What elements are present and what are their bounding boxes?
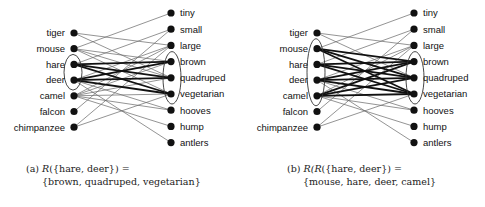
object-node-deer xyxy=(70,77,77,84)
edge-hare-small xyxy=(74,29,171,64)
attribute-label-tiny: tiny xyxy=(423,7,438,18)
object-label-mouse: mouse xyxy=(279,43,308,54)
attribute-label-small: small xyxy=(423,24,445,35)
attribute-label-vegetarian: vegetarian xyxy=(423,88,467,99)
attribute-node-vegetarian xyxy=(167,90,174,97)
object-node-tiger xyxy=(70,29,77,36)
attribute-node-hump xyxy=(410,123,417,130)
attribute-node-large xyxy=(167,42,174,49)
object-label-chimpanzee: chimpanzee xyxy=(257,122,308,133)
object-selection-ellipse xyxy=(64,54,82,90)
object-node-falcon xyxy=(313,108,320,115)
object-node-deer xyxy=(313,77,320,84)
object-label-deer: deer xyxy=(289,74,308,85)
object-node-camel xyxy=(313,92,320,99)
caption-a-arg: ({hare, deer}) = xyxy=(49,163,129,174)
object-label-hare: hare xyxy=(46,59,65,70)
panel-b: tigermouseharedeercamelfalconchimpanzeet… xyxy=(243,0,485,207)
attribute-node-antlers xyxy=(167,139,174,146)
attribute-label-tiny: tiny xyxy=(180,7,195,18)
attribute-label-hump: hump xyxy=(423,121,447,132)
edge-camel-hooves xyxy=(317,96,414,110)
panel-a: tigermouseharedeercamelfalconchimpanzeet… xyxy=(0,0,242,207)
caption-b: (b) R(R({hare, deer}) = {mouse, hare, de… xyxy=(287,162,436,188)
object-node-falcon xyxy=(70,108,77,115)
attribute-label-antlers: antlers xyxy=(423,137,452,148)
caption-a-tag: (a) xyxy=(26,163,39,174)
attribute-label-hooves: hooves xyxy=(423,105,454,116)
object-label-tiger: tiger xyxy=(290,27,308,38)
caption-b-arg: ({hare, deer}) = xyxy=(322,163,402,174)
object-label-falcon: falcon xyxy=(40,106,65,117)
attribute-label-small: small xyxy=(180,24,202,35)
object-node-mouse xyxy=(313,45,320,52)
bipartite-graph-b: tigermouseharedeercamelfalconchimpanzeet… xyxy=(243,0,485,160)
caption-b-result: {mouse, hare, deer, camel} xyxy=(287,175,436,188)
caption-a-result: {brown, quadruped, vegetarian} xyxy=(26,175,201,188)
attribute-label-quadruped: quadruped xyxy=(180,72,225,83)
attribute-node-tiny xyxy=(410,9,417,16)
attribute-label-brown: brown xyxy=(423,56,449,67)
attribute-node-antlers xyxy=(410,139,417,146)
attribute-label-hump: hump xyxy=(180,121,204,132)
attribute-node-hump xyxy=(167,123,174,130)
attribute-node-quadruped xyxy=(167,74,174,81)
attribute-node-quadruped xyxy=(410,74,417,81)
object-label-tiger: tiger xyxy=(47,27,65,38)
attribute-node-hooves xyxy=(167,107,174,114)
object-node-chimpanzee xyxy=(313,124,320,131)
object-node-chimpanzee xyxy=(70,124,77,131)
bipartite-graph-a: tigermouseharedeercamelfalconchimpanzeet… xyxy=(0,0,242,160)
caption-b-func: R(R xyxy=(304,163,322,174)
attribute-node-small xyxy=(410,26,417,33)
object-label-mouse: mouse xyxy=(36,43,65,54)
object-label-chimpanzee: chimpanzee xyxy=(14,122,65,133)
attribute-node-small xyxy=(167,26,174,33)
attribute-label-vegetarian: vegetarian xyxy=(180,88,224,99)
edge-camel-vegetarian xyxy=(317,94,414,96)
caption-a: (a) R({hare, deer}) = {brown, quadruped,… xyxy=(26,162,201,188)
object-label-camel: camel xyxy=(40,90,65,101)
attribute-node-brown xyxy=(410,58,417,65)
attribute-label-hooves: hooves xyxy=(180,105,211,116)
attribute-node-tiny xyxy=(167,9,174,16)
object-label-hare: hare xyxy=(289,59,308,70)
edge-camel-hooves xyxy=(74,96,171,110)
attribute-label-brown: brown xyxy=(180,56,206,67)
edge-camel-vegetarian xyxy=(74,94,171,96)
edges xyxy=(74,13,171,143)
attribute-node-vegetarian xyxy=(410,90,417,97)
object-node-camel xyxy=(70,92,77,99)
edge-camel-hump xyxy=(74,96,171,127)
attribute-label-large: large xyxy=(180,40,201,51)
caption-b-tag: (b) xyxy=(287,163,301,174)
object-node-tiger xyxy=(313,29,320,36)
object-label-deer: deer xyxy=(46,74,65,85)
attribute-node-hooves xyxy=(410,107,417,114)
attribute-label-antlers: antlers xyxy=(180,137,209,148)
attribute-label-quadruped: quadruped xyxy=(423,72,468,83)
attribute-node-large xyxy=(410,42,417,49)
attribute-label-large: large xyxy=(423,40,444,51)
object-node-hare xyxy=(70,61,77,68)
object-label-camel: camel xyxy=(283,90,308,101)
attribute-node-brown xyxy=(167,58,174,65)
object-label-falcon: falcon xyxy=(283,106,308,117)
edge-camel-hump xyxy=(317,96,414,127)
object-node-mouse xyxy=(70,45,77,52)
edges xyxy=(317,13,414,143)
object-node-hare xyxy=(313,61,320,68)
